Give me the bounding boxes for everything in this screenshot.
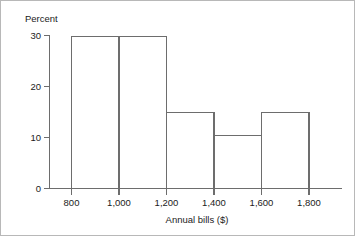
histogram-bars [72, 36, 310, 188]
y-tick-group: 30 20 10 0 [30, 30, 49, 194]
histogram-figure: Percent 30 20 10 0 800 1,000 1,200 1,400 [0, 0, 355, 236]
histogram-bar-800-1000 [72, 36, 120, 188]
histogram-bar-1000-1200 [119, 36, 167, 188]
y-axis-label: Percent [25, 13, 58, 24]
x-tick-label-800: 800 [64, 197, 80, 208]
histogram-bar-1400-1600 [214, 135, 262, 188]
y-tick-label-0: 0 [36, 183, 41, 194]
histogram-bar-1600-1800 [262, 112, 310, 188]
y-tick-label-10: 10 [30, 132, 41, 143]
x-axis-label: Annual bills ($) [166, 214, 229, 225]
x-tick-group: 800 1,000 1,200 1,400 1,600 1,800 [64, 189, 321, 209]
y-tick-label-20: 20 [30, 81, 41, 92]
x-tick-label-1800: 1,800 [297, 197, 321, 208]
x-tick-label-1400: 1,400 [202, 197, 226, 208]
histogram-bar-1200-1400 [167, 112, 215, 188]
y-tick-label-30: 30 [30, 30, 41, 41]
x-tick-label-1200: 1,200 [155, 197, 179, 208]
histogram-plot: Percent 30 20 10 0 800 1,000 1,200 1,400 [1, 1, 355, 236]
x-tick-label-1000: 1,000 [107, 197, 131, 208]
x-tick-label-1600: 1,600 [250, 197, 274, 208]
